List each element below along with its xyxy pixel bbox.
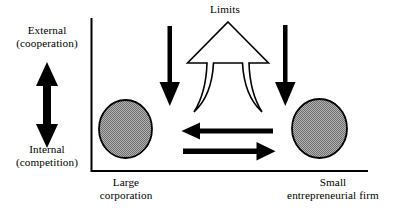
small-entrepreneurial-firm-node[interactable] — [292, 99, 347, 158]
limits-label: Limits — [180, 3, 270, 16]
large-corporation-label-line2: corporation — [85, 189, 167, 202]
large-corporation-label: Large corporation — [85, 176, 167, 201]
small-entrepreneurial-firm-label-line1: Small — [272, 176, 394, 189]
limits-flared-arrow — [188, 22, 269, 112]
left-down-arrow — [160, 26, 181, 106]
axis-label-external: External (cooperation) — [0, 24, 94, 49]
right-to-left-arrow — [182, 123, 274, 140]
large-corporation-label-line1: Large — [85, 176, 167, 189]
small-entrepreneurial-firm-label-line2: entrepreneurial firm — [272, 189, 394, 202]
left-to-right-arrow — [183, 142, 276, 161]
axis-label-external-line2: (cooperation) — [0, 37, 94, 50]
axis-label-internal-line1: Internal — [0, 143, 94, 156]
diagram-canvas: External (cooperation) Internal (competi… — [0, 0, 400, 217]
small-entrepreneurial-firm-label: Small entrepreneurial firm — [272, 176, 394, 201]
axis-label-external-line1: External — [0, 24, 94, 37]
axis-label-internal-line2: (competition) — [0, 156, 94, 169]
large-corporation-node[interactable] — [99, 100, 152, 158]
vertical-double-arrow — [36, 62, 58, 148]
axis-label-internal: Internal (competition) — [0, 143, 94, 168]
right-down-arrow — [275, 25, 296, 106]
